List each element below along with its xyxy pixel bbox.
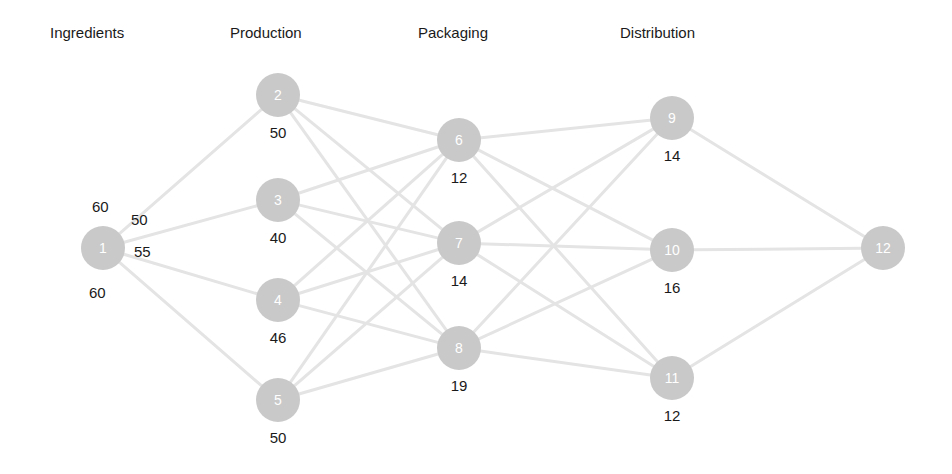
node-value-3: 40 (238, 229, 318, 246)
node-value-5: 50 (238, 429, 318, 446)
edge-7-10 (479, 244, 652, 250)
node-6[interactable]: 6 (437, 118, 481, 162)
edge-8-11 (479, 351, 652, 375)
edge-11-12 (689, 258, 866, 367)
node-12[interactable]: 12 (861, 226, 905, 270)
node-7[interactable]: 7 (437, 221, 481, 265)
stage-header-distribution: Distribution (620, 24, 695, 41)
edge-label-1-4: 55 (134, 243, 151, 260)
stage-header-production: Production (230, 24, 302, 41)
stage-header-packaging: Packaging (418, 24, 488, 41)
edge-7-9 (476, 128, 655, 233)
node-value-7: 14 (419, 272, 499, 289)
node-3[interactable]: 3 (256, 178, 300, 222)
node-10[interactable]: 10 (650, 228, 694, 272)
node-5[interactable]: 5 (256, 378, 300, 422)
node-value-8: 19 (419, 377, 499, 394)
node-9[interactable]: 9 (650, 96, 694, 140)
stage-header-ingredients: Ingredients (50, 24, 124, 41)
node-2[interactable]: 2 (256, 73, 300, 117)
edge-10-12 (692, 248, 863, 250)
node-11[interactable]: 11 (650, 356, 694, 400)
node-1[interactable]: 1 (81, 226, 125, 270)
edge-label-1-2: 60 (92, 198, 109, 215)
node-8[interactable]: 8 (437, 326, 481, 370)
node-value-4: 46 (238, 329, 318, 346)
edge-6-10 (477, 149, 654, 241)
node-value-9: 14 (632, 147, 712, 164)
edge-1-5 (118, 261, 263, 387)
node-value-10: 16 (632, 279, 712, 296)
edge-label-1-5: 60 (89, 284, 106, 301)
node-4[interactable]: 4 (256, 278, 300, 322)
flow-network-diagram: IngredientsProductionPackagingDistributi… (0, 0, 952, 474)
edge-label-1-3: 50 (131, 211, 148, 228)
node-value-6: 12 (419, 169, 499, 186)
node-value-2: 50 (238, 124, 318, 141)
node-value-11: 12 (632, 407, 712, 424)
edge-6-9 (479, 120, 652, 138)
edge-4-8 (297, 305, 439, 343)
edge-6-11 (472, 155, 658, 363)
edge-9-12 (689, 128, 866, 237)
